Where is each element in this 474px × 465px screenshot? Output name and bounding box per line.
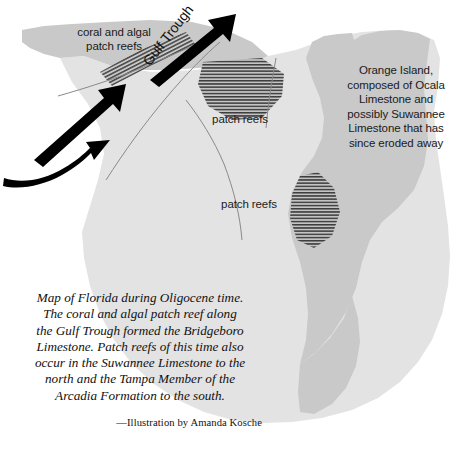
figure-caption: Map of Florida during Oligocene time. Th… xyxy=(34,290,246,404)
map-label-patch-reefs-lower: patch reefs xyxy=(208,198,290,212)
map-label-patch-reefs-upper: patch reefs xyxy=(200,113,280,127)
figure-canvas: coral and algal patch reefs Gulf Trough … xyxy=(0,0,474,465)
figure-caption-credit: —Illustration by Amanda Kosche xyxy=(34,417,262,428)
map-label-orange-island: Orange Island, composed of Ocala Limesto… xyxy=(335,63,457,150)
